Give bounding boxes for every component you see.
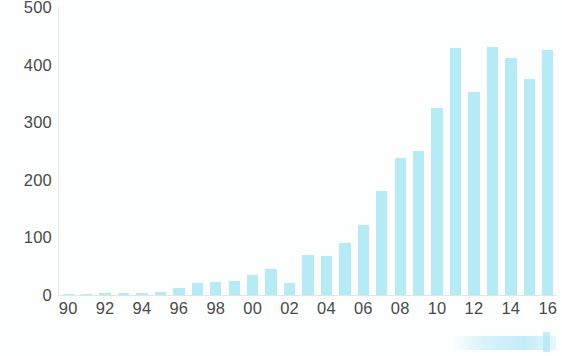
x-axis-tick-label: 08 [391, 300, 410, 317]
x-axis-tick-label: 06 [354, 300, 373, 317]
x-axis-tick-label: 16 [538, 300, 557, 317]
scan-artifact-edge [543, 332, 550, 352]
x-axis-tick-label: 14 [501, 300, 520, 317]
x-axis-tick-label: 04 [317, 300, 336, 317]
x-axis-tick-label: 12 [465, 300, 484, 317]
x-axis-tick-labels: 9092949698000204060810121416 [0, 0, 562, 356]
x-axis-tick-label: 00 [243, 300, 262, 317]
x-axis-tick-label: 10 [428, 300, 447, 317]
x-axis-tick-label: 96 [169, 300, 188, 317]
x-axis-tick-label: 90 [59, 300, 78, 317]
scan-artifact [452, 336, 556, 350]
bar-chart: 0100200300400500 90929496980002040608101… [0, 0, 562, 356]
x-axis-tick-label: 02 [280, 300, 299, 317]
x-axis-tick-label: 92 [96, 300, 115, 317]
x-axis-tick-label: 98 [206, 300, 225, 317]
x-axis-tick-label: 94 [133, 300, 152, 317]
